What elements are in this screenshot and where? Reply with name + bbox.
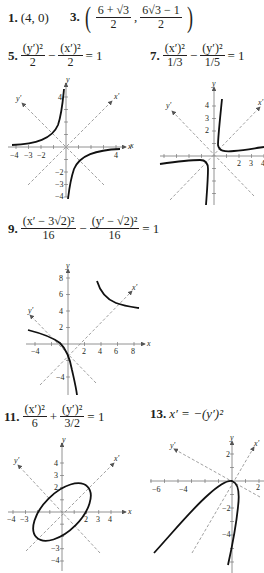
answer-7: 7. (x′)²1/3 − (y′)²1/5 = 1 (150, 42, 245, 69)
tick-label: 4 (58, 93, 62, 102)
operator: + (50, 409, 57, 425)
tick-label: −2 (222, 504, 231, 513)
x-axis-label: x (129, 141, 134, 150)
y-prime-label: y′ (165, 101, 172, 110)
fraction: (y′)²3/2 (60, 403, 84, 430)
tick-label: 2 (237, 159, 241, 168)
numerator: (y′ − √2)² (90, 215, 140, 229)
answer-11-label: 11. (4, 409, 20, 425)
answer-1: 1. (4, 0) (8, 10, 49, 26)
answer-1-value: (4, 0) (21, 10, 49, 26)
tick-label: 3 (249, 159, 253, 168)
answer-9: 9. (x′ − 3√2)²16 − (y′ − √2)²16 = 1 (8, 215, 159, 242)
denominator: 1/3 (163, 56, 187, 69)
numerator: 6√3 − 1 (140, 4, 181, 18)
fraction: (x′)²2 (58, 42, 82, 69)
answer-9-label: 9. (8, 221, 18, 237)
fraction: (y′)²2 (21, 42, 45, 69)
numerator: (y′)² (21, 42, 45, 56)
tick-label: 3 (205, 114, 209, 123)
tick-label: −3 (24, 151, 33, 160)
operator: − (48, 48, 55, 64)
denominator: 2 (21, 56, 45, 69)
answer-3-label: 3. (70, 9, 80, 25)
answer-13-equation: x′ = −(y′)² (169, 406, 223, 422)
denominator: 16 (21, 229, 77, 242)
numerator: (x′)² (23, 403, 47, 417)
tick-label: −2 (55, 168, 64, 177)
graph-7: y x y′ x′ 2 3 4 4 3 2 (130, 75, 264, 205)
tick-label: −4 (179, 485, 188, 494)
numerator: (x′)² (163, 42, 187, 56)
numerator: (x′ − 3√2)² (21, 215, 77, 229)
denominator: 1/5 (200, 56, 224, 69)
tick-label: −4 (31, 347, 40, 356)
numerator: (y′)² (200, 42, 224, 56)
y-axis-label: y (211, 79, 216, 88)
tick-label: −4 (55, 192, 64, 201)
y-prime-label: y′ (27, 306, 34, 315)
tick-label: 2 (84, 515, 88, 524)
tick-label: 4 (261, 159, 264, 168)
tick-label: −3 (20, 515, 29, 524)
answer-5-label: 5. (8, 48, 18, 64)
tick-label: 2 (59, 323, 63, 332)
y-prime-label: y′ (169, 441, 176, 450)
tick-label: 2 (256, 483, 260, 492)
tick-label: 4 (59, 307, 63, 316)
x-prime-label: x′ (253, 439, 260, 448)
graph-13: y x′ y′ −6 −4 2 2 −2 −4 (130, 435, 264, 573)
tick-label: −4 (51, 556, 60, 565)
tick-label: −3 (55, 180, 64, 189)
tick-label: 3 (54, 471, 58, 480)
tick-label: 3 (96, 515, 100, 524)
tick-label: −6 (152, 485, 161, 494)
x-prime-label: x′ (131, 283, 138, 292)
denominator: 2 (96, 18, 131, 31)
graph-9: x y x′ y′ −4 2 4 6 8 8 6 4 2 −4 (0, 255, 180, 405)
x-prime-label: x′ (113, 92, 120, 101)
denominator: 3/2 (60, 417, 84, 430)
operator: − (190, 48, 197, 64)
denominator: 2 (140, 18, 181, 31)
x-axis-label: x (146, 339, 151, 348)
fraction: (x′ − 3√2)²16 (21, 215, 77, 242)
tick-label: 4 (205, 101, 209, 110)
fraction: (x′)²6 (23, 403, 47, 430)
answer-13-label: 13. (150, 406, 166, 422)
fraction: (y′)²1/5 (200, 42, 224, 69)
tick-label: 4 (54, 459, 58, 468)
tick-label: 4 (108, 515, 112, 524)
y-axis-label: y (229, 433, 234, 442)
answer-3-x-fraction: 6 + √3 2 (96, 4, 131, 31)
answer-3-y-fraction: 6√3 − 1 2 (140, 4, 181, 31)
tick-label: 8 (131, 347, 135, 356)
tick-label: 6 (59, 290, 63, 299)
graph-5: x y x′ y′ −4 −3 −2 4 4 −2 −3 −4 (0, 75, 133, 200)
rhs: = 1 (87, 409, 104, 425)
tick-label: 6 (114, 347, 118, 356)
x-prime-label: x′ (257, 98, 264, 107)
rhs: = 1 (228, 48, 245, 64)
denominator: 2 (58, 56, 82, 69)
tick-label: −4 (56, 373, 65, 382)
numerator: (x′)² (58, 42, 82, 56)
numerator: (y′)² (60, 403, 84, 417)
tick-label: 2 (226, 450, 230, 459)
tick-label: −4 (7, 515, 16, 524)
y-axis-label: y (65, 261, 70, 270)
answer-13: 13. x′ = −(y′)² (150, 406, 223, 422)
answer-1-label: 1. (8, 10, 18, 26)
x-prime-label: x′ (113, 454, 120, 463)
fraction: (x′)²1/3 (163, 42, 187, 69)
denominator: 16 (90, 229, 140, 242)
y-axis-label: y (65, 75, 70, 84)
tick-label: 2 (205, 126, 209, 135)
operator: − (79, 221, 86, 237)
tick-label: 2 (82, 347, 86, 356)
tick-label: 4 (98, 347, 102, 356)
numerator: 6 + √3 (96, 4, 131, 18)
y-axis-label: y (61, 435, 66, 444)
answer-7-label: 7. (150, 48, 160, 64)
denominator: 6 (23, 417, 47, 430)
